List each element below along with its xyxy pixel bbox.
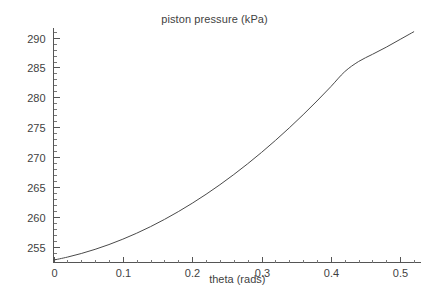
data-series-piston-pressure bbox=[54, 32, 415, 261]
x-axis-tick-label: 0.4 bbox=[324, 267, 339, 279]
y-axis-tick-label: 255 bbox=[27, 242, 45, 254]
y-axis-tick-label: 260 bbox=[27, 212, 45, 224]
y-axis-tick-label: 290 bbox=[27, 33, 45, 45]
chart-figure: piston pressure (kPa) 255260265270275280… bbox=[0, 0, 429, 297]
x-axis-tick-label: 0.1 bbox=[116, 267, 131, 279]
plot-area: 255260265270275280285290 00.10.20.30.40.… bbox=[0, 0, 429, 297]
y-axis-tick-labels: 255260265270275280285290 bbox=[27, 33, 45, 254]
x-axis-title: theta (rads) bbox=[209, 273, 265, 285]
y-axis-major-ticks bbox=[54, 39, 60, 248]
x-axis-major-ticks bbox=[55, 257, 401, 263]
y-axis-tick-label: 285 bbox=[27, 62, 45, 74]
x-axis-tick-label: 0.5 bbox=[393, 267, 408, 279]
y-axis-tick-label: 275 bbox=[27, 122, 45, 134]
y-axis-tick-label: 280 bbox=[27, 92, 45, 104]
x-axis-tick-label: 0.2 bbox=[185, 267, 200, 279]
y-axis-tick-label: 270 bbox=[27, 152, 45, 164]
y-axis-tick-label: 265 bbox=[27, 182, 45, 194]
x-axis-tick-label: 0 bbox=[51, 267, 57, 279]
